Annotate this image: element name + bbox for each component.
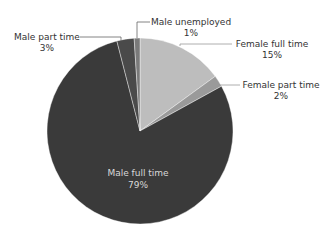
label-male-unemployed-name: Male unemployed: [151, 17, 231, 27]
label-female-full-time-name: Female full time: [236, 39, 309, 49]
label-female-full-time-pct: 15%: [262, 50, 282, 60]
label-male-unemployed-pct: 1%: [184, 28, 199, 38]
leader-male-part-time: [80, 37, 121, 41]
label-male-full-time-name: Male full time: [107, 168, 169, 178]
leader-male-unemployed: [137, 22, 150, 38]
pie-chart: Male unemployed 1% Female full time 15% …: [0, 0, 327, 241]
label-male-part-time-pct: 3%: [40, 43, 55, 53]
label-male-part-time-name: Male part time: [14, 32, 80, 42]
pie-slices: [47, 38, 233, 224]
label-female-part-time-pct: 2%: [274, 91, 289, 101]
label-female-part-time-name: Female part time: [242, 80, 320, 90]
label-male-full-time-pct: 79%: [128, 180, 148, 190]
leader-female-full-time: [180, 44, 232, 46]
